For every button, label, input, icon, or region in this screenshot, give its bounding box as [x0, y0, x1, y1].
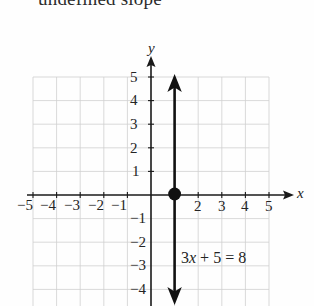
equation-annotation: 3x + 5 = 8: [181, 249, 246, 267]
equation-plus-sign: +: [200, 249, 209, 266]
y-tick-label-2: 2: [130, 141, 138, 156]
y-tick-label-neg2: −2: [130, 235, 146, 250]
y-tick-label-neg4: −4: [130, 282, 146, 297]
y-tick-label-5: 5: [130, 70, 138, 85]
coordinate-plane-svg: [0, 0, 314, 306]
equation-variable: x: [189, 249, 196, 266]
x-tick-label-neg5: −5: [17, 198, 33, 213]
coordinate-plane: y x 5 4 3 2 1 −1 −2 −3 −4 −5 −4 −3 −2 −1…: [0, 0, 314, 306]
y-tick-label-1: 1: [132, 164, 140, 179]
y-tick-label-neg3: −3: [130, 258, 146, 273]
equation-constant: 5: [213, 249, 221, 266]
graph-figure: undefined slope: [0, 0, 314, 306]
x-tick-label-neg2: −2: [88, 198, 104, 213]
x-tick-label-neg4: −4: [40, 198, 56, 213]
x-tick-label-3: 3: [218, 199, 226, 214]
y-axis-label: y: [148, 41, 155, 56]
x-tick-label-neg1: −1: [111, 198, 127, 213]
x-tick-label-5: 5: [265, 199, 273, 214]
point-marker-1-0: [168, 188, 181, 201]
y-tick-label-3: 3: [130, 117, 138, 132]
equation-equals-sign: =: [225, 249, 234, 266]
x-tick-label-4: 4: [241, 199, 249, 214]
x-tick-label-neg3: −3: [64, 198, 80, 213]
y-tick-label-4: 4: [130, 93, 138, 108]
x-axis-label: x: [297, 186, 304, 201]
y-axis: [147, 56, 156, 306]
x-tick-label-2: 2: [194, 199, 202, 214]
y-tick-label-neg1: −1: [130, 211, 146, 226]
equation-coefficient: 3: [181, 249, 189, 266]
equation-result: 8: [238, 249, 246, 266]
